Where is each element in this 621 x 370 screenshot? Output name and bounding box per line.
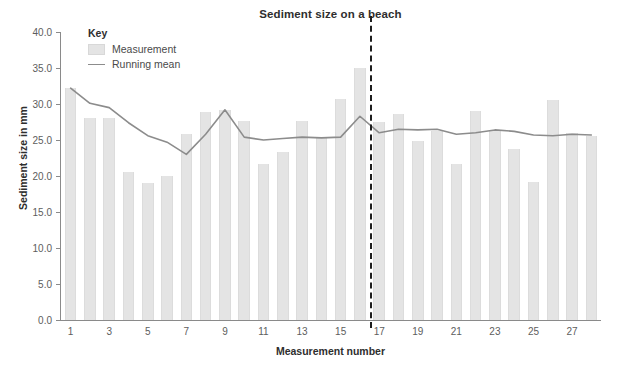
- x-tick-label: 19: [412, 326, 423, 337]
- x-tick-label: 7: [184, 326, 190, 337]
- legend: Key Measurement Running mean: [88, 27, 180, 70]
- x-tick-label: 1: [68, 326, 74, 337]
- legend-bar-swatch-icon: [88, 44, 105, 55]
- y-tick-label: 30.0: [33, 99, 52, 110]
- x-tick-label: 21: [451, 326, 462, 337]
- x-tick-label: 13: [297, 326, 308, 337]
- y-tick-label: 15.0: [33, 207, 52, 218]
- figure: Sediment size on a beach Sediment size i…: [0, 0, 621, 370]
- x-tick-label: 9: [222, 326, 228, 337]
- legend-label-running-mean: Running mean: [112, 58, 180, 70]
- y-tick-label: 35.0: [33, 63, 52, 74]
- section-divider-line: [370, 16, 372, 328]
- x-tick-label: 27: [567, 326, 578, 337]
- y-tick-label: 10.0: [33, 243, 52, 254]
- x-tick-label: 11: [258, 326, 268, 337]
- x-tick-label: 3: [106, 326, 112, 337]
- legend-title: Key: [88, 27, 180, 39]
- x-axis-title: Measurement number: [0, 345, 621, 357]
- y-tick-label: 20.0: [33, 171, 52, 182]
- y-tick-label: 25.0: [33, 135, 52, 146]
- figure-caption: [4, 363, 617, 370]
- legend-label-measurement: Measurement: [112, 43, 176, 55]
- plot-area: 0.05.010.015.020.025.030.035.040.0 13579…: [61, 32, 601, 320]
- y-tick-mark: [56, 320, 61, 321]
- y-tick-label: 40.0: [33, 27, 52, 38]
- x-tick-label: 17: [374, 326, 385, 337]
- x-tick-label: 5: [145, 326, 151, 337]
- x-tick-label: 15: [335, 326, 346, 337]
- running-mean-line: [61, 32, 601, 320]
- chart-title: Sediment size on a beach: [0, 8, 621, 20]
- legend-item-measurement: Measurement: [88, 43, 180, 55]
- y-tick-label: 0.0: [38, 315, 52, 326]
- x-tick-label: 23: [489, 326, 500, 337]
- x-tick-label: 25: [528, 326, 539, 337]
- legend-line-swatch-icon: [88, 64, 105, 65]
- y-axis-title: Sediment size in mm: [17, 73, 29, 243]
- y-tick-label: 5.0: [38, 279, 52, 290]
- legend-item-running-mean: Running mean: [88, 58, 180, 70]
